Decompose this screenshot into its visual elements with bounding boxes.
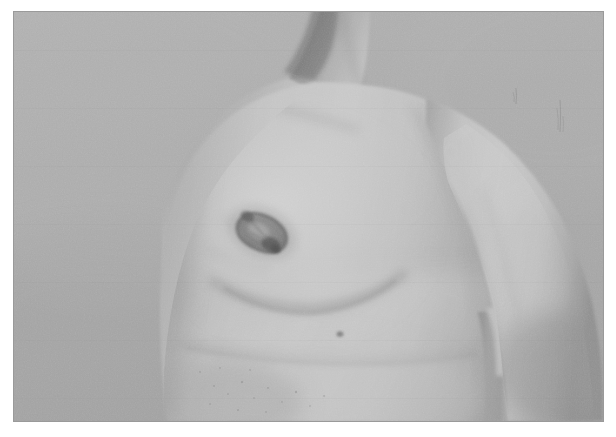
photograph-canvas (14, 12, 603, 421)
page-root (0, 0, 616, 437)
clinical-photograph (14, 12, 603, 421)
